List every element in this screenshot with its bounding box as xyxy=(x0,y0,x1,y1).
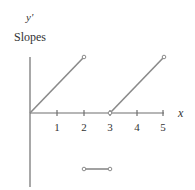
y-axis-label: y' xyxy=(25,11,34,23)
x-tick-label-3: 3 xyxy=(107,121,113,133)
slope-segment-1 xyxy=(30,57,84,113)
open-endpoint xyxy=(162,55,166,59)
open-endpoint xyxy=(82,55,86,59)
open-endpoint xyxy=(108,167,112,171)
x-tick-label-1: 1 xyxy=(54,121,60,133)
x-axis-label: x xyxy=(177,106,184,120)
open-endpoint xyxy=(82,167,86,171)
chart-title: Slopes xyxy=(14,30,46,44)
x-tick-label-4: 4 xyxy=(134,121,140,133)
open-endpoint xyxy=(108,111,112,115)
x-tick-label-5: 5 xyxy=(160,121,166,133)
slope-segment-3 xyxy=(110,57,164,113)
slopes-chart: 1 2 3 4 5 x y' Slopes xyxy=(0,0,195,190)
x-tick-label-2: 2 xyxy=(81,121,87,133)
